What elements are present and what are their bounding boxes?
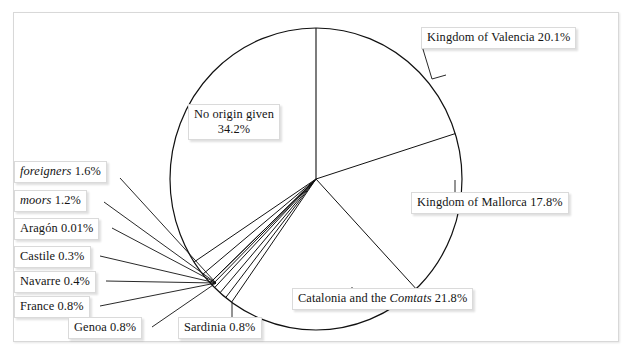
label-no-origin-line1: No origin given [194, 107, 274, 121]
label-mallorca-text: Kingdom of Mallorca 17.8% [417, 195, 563, 209]
label-aragon-text: Aragón 0.01% [20, 221, 93, 235]
label-sardinia: Sardinia 0.8% [178, 317, 262, 339]
label-catalonia-pre: Catalonia and the [298, 291, 390, 305]
label-valencia-text: Kingdom of Valencia 20.1% [427, 30, 570, 44]
label-foreigners: foreigners 1.6% [14, 161, 107, 183]
label-castile-text: Castile 0.3% [20, 249, 85, 263]
label-moors-italic: moors [20, 193, 51, 207]
label-catalonia-italic: Comtats [390, 291, 432, 305]
label-aragon: Aragón 0.01% [14, 218, 99, 240]
leader-valencia [422, 46, 446, 79]
label-no-origin-line2: 34.2% [194, 122, 274, 137]
label-catalonia-post: 21.8% [432, 291, 468, 305]
label-navarre: Navarre 0.4% [14, 271, 96, 293]
label-france-text: France 0.8% [20, 299, 84, 313]
label-sardinia-text: Sardinia 0.8% [184, 320, 256, 334]
label-kingdom-of-valencia: Kingdom of Valencia 20.1% [421, 27, 576, 49]
pie-chart-figure: Kingdom of Valencia 20.1% Kingdom of Mal… [0, 0, 632, 355]
label-foreigners-post: 1.6% [71, 164, 100, 178]
label-navarre-text: Navarre 0.4% [20, 274, 90, 288]
label-moors-post: 1.2% [51, 193, 80, 207]
label-no-origin-given: No origin given 34.2% [188, 104, 280, 140]
label-moors: moors 1.2% [14, 190, 87, 212]
label-kingdom-of-mallorca: Kingdom of Mallorca 17.8% [411, 192, 569, 214]
label-catalonia-comtats: Catalonia and the Comtats 21.8% [292, 288, 473, 310]
label-genoa: Genoa 0.8% [68, 317, 142, 339]
label-france: France 0.8% [14, 296, 90, 318]
label-foreigners-italic: foreigners [20, 164, 71, 178]
label-genoa-text: Genoa 0.8% [74, 320, 136, 334]
label-castile: Castile 0.3% [14, 246, 91, 268]
leader-navarre [106, 281, 216, 283]
